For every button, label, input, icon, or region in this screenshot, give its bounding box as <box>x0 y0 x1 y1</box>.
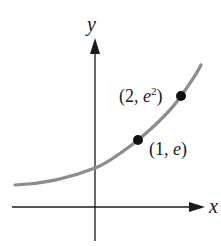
point-2-label: (2, e2) <box>119 87 163 105</box>
x-axis-arrow-icon <box>189 202 205 212</box>
plot-canvas <box>0 0 221 246</box>
point-1-label-var: e <box>173 139 181 159</box>
exponential-graph: y x (1, e) (2, e2) <box>0 0 221 246</box>
y-axis-label: y <box>87 14 96 34</box>
x-axis-label: x <box>209 196 218 216</box>
point-2-label-var: e <box>143 86 151 106</box>
point-1-label-open: (1, <box>149 139 173 159</box>
y-axis-arrow-icon <box>90 38 100 54</box>
exponential-curve <box>15 65 201 185</box>
point-2-label-close: ) <box>157 86 163 106</box>
point-1-label: (1, e) <box>149 140 187 158</box>
point-1-e <box>133 135 143 145</box>
point-2-label-open: (2, <box>119 86 143 106</box>
point-2-e-squared <box>176 91 186 101</box>
point-1-label-close: ) <box>181 139 187 159</box>
